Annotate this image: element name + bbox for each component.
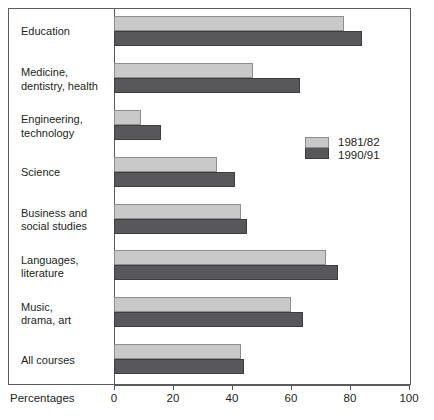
legend-labels: 1981/82 1990/91 xyxy=(338,136,380,162)
chart-row: Business and social studies xyxy=(9,197,410,244)
bar-1990-91 xyxy=(114,172,235,187)
category-label: Science xyxy=(21,166,117,180)
bar-1990-91 xyxy=(114,359,244,374)
bar-1981-82 xyxy=(114,157,217,172)
bar-1981-82 xyxy=(114,204,241,219)
bar-1990-91 xyxy=(114,265,338,280)
bar-1990-91 xyxy=(114,31,362,46)
chart-row: Medicine, dentistry, health xyxy=(9,56,410,103)
row-bars xyxy=(114,197,410,244)
row-bars xyxy=(114,290,410,337)
x-tick-label: 100 xyxy=(399,392,418,404)
x-axis-title: Percentages xyxy=(10,392,75,404)
x-tick-label: 20 xyxy=(167,392,180,404)
category-label: Music, drama, art xyxy=(21,300,117,327)
legend-swatches xyxy=(305,137,329,159)
legend-label-1990-91: 1990/91 xyxy=(338,149,380,162)
chart-row: All courses xyxy=(9,337,410,384)
bar-1981-82 xyxy=(114,63,253,78)
bar-1990-91 xyxy=(114,78,300,93)
bar-chart: EducationMedicine, dentistry, healthEngi… xyxy=(0,0,434,420)
category-label: Languages, literature xyxy=(21,253,117,280)
category-label: Engineering, technology xyxy=(21,113,117,140)
x-tick xyxy=(409,385,410,390)
x-tick xyxy=(114,385,115,390)
chart-row: Education xyxy=(9,9,410,56)
category-label: Medicine, dentistry, health xyxy=(21,66,117,93)
legend-swatch-1990-91 xyxy=(305,148,329,159)
chart-row: Music, drama, art xyxy=(9,290,410,337)
category-label: Business and social studies xyxy=(21,206,117,233)
category-label: All courses xyxy=(21,354,117,368)
x-axis-line xyxy=(114,385,410,386)
x-tick xyxy=(232,385,233,390)
bar-1981-82 xyxy=(114,16,344,31)
row-bars xyxy=(114,243,410,290)
x-tick-label: 40 xyxy=(226,392,239,404)
category-rows: EducationMedicine, dentistry, healthEngi… xyxy=(9,9,410,384)
x-tick-label: 60 xyxy=(285,392,298,404)
chart-legend: 1981/82 1990/91 xyxy=(305,136,380,162)
row-bars xyxy=(114,56,410,103)
bar-1981-82 xyxy=(114,344,241,359)
x-tick xyxy=(350,385,351,390)
bar-1981-82 xyxy=(114,110,141,125)
category-label: Education xyxy=(21,26,117,40)
legend-label-1981-82: 1981/82 xyxy=(338,136,380,149)
x-tick xyxy=(173,385,174,390)
row-bars xyxy=(114,9,410,56)
x-tick-label: 0 xyxy=(111,392,117,404)
bar-1981-82 xyxy=(114,297,291,312)
row-bars xyxy=(114,337,410,384)
bar-1981-82 xyxy=(114,250,326,265)
x-tick xyxy=(291,385,292,390)
bar-1990-91 xyxy=(114,219,247,234)
chart-row: Languages, literature xyxy=(9,243,410,290)
bar-1990-91 xyxy=(114,125,161,140)
bar-1990-91 xyxy=(114,312,303,327)
x-tick-label: 80 xyxy=(344,392,357,404)
legend-swatch-1981-82 xyxy=(305,137,329,148)
